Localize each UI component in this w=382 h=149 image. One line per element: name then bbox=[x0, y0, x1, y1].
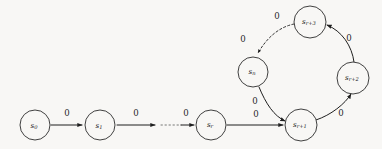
edge-label-sr3-sn-lower: 0 bbox=[240, 34, 245, 44]
edge-label-s0-s1: 0 bbox=[64, 108, 69, 118]
node-s0[interactable]: s0 bbox=[20, 110, 50, 140]
node-s1[interactable]: s1 bbox=[85, 110, 115, 140]
node-sn[interactable]: sn bbox=[238, 57, 268, 87]
edge-sr1-to-sr2: 0 bbox=[316, 94, 351, 120]
edge-ellipsis-to-sr: 0 bbox=[181, 108, 194, 126]
edge-label-sr-sr1: 0 bbox=[253, 109, 258, 119]
edge-label-ellipsis-sr: 0 bbox=[183, 108, 188, 118]
diagram-canvas: 0 0 0 0 0 0 0 bbox=[0, 0, 382, 149]
edge-label-sr1-sr2: 0 bbox=[338, 108, 343, 118]
edge-label-sr3-sn-upper: 0 bbox=[274, 11, 279, 21]
node-sr[interactable]: sr bbox=[196, 110, 226, 140]
edge-label-s1-ellipsis: 0 bbox=[133, 108, 138, 118]
edge-sr1-to-sr2-curve bbox=[316, 94, 351, 120]
edge-sr2-to-sr3: 0 bbox=[327, 25, 354, 62]
node-sr3[interactable]: sr+3 bbox=[294, 6, 326, 38]
edge-sr-to-sr1: 0 bbox=[227, 109, 283, 126]
edge-sr3-to-sn-dashed bbox=[258, 24, 294, 53]
node-sr2[interactable]: sr+2 bbox=[337, 62, 369, 94]
edge-s1-to-ellipsis: 0 bbox=[117, 108, 155, 126]
edge-sn-to-sr1-curve bbox=[259, 87, 285, 121]
node-sr1[interactable]: sr+1 bbox=[285, 109, 317, 141]
edge-label-sr2-sr3: 0 bbox=[346, 33, 351, 43]
edge-s0-to-s1: 0 bbox=[51, 108, 82, 126]
edge-sr2-to-sr3-curve bbox=[327, 25, 354, 62]
edge-label-sn-sr1: 0 bbox=[252, 96, 257, 106]
edge-sr3-to-sn: 0 0 bbox=[240, 11, 294, 54]
diagram-svg: 0 0 0 0 0 0 0 bbox=[0, 0, 382, 149]
